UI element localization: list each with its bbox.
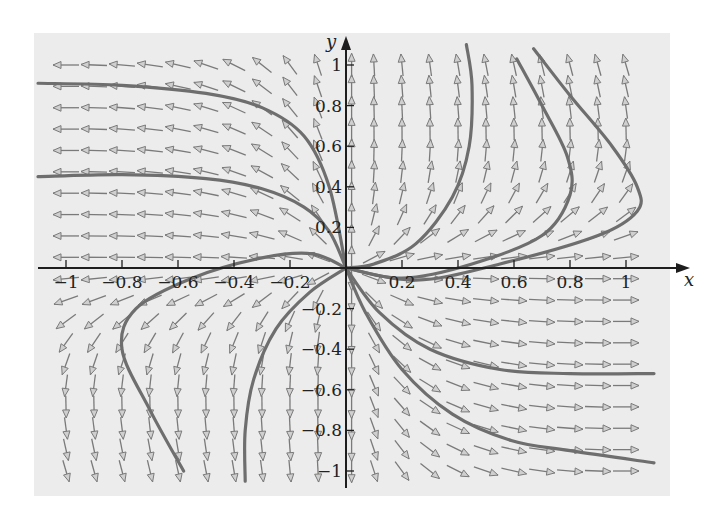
x-tick-label: −0.6 xyxy=(157,272,198,292)
y-tick-label: −1 xyxy=(317,461,342,481)
y-axis-label: y xyxy=(325,31,337,52)
y-tick-label: 0.8 xyxy=(315,96,342,116)
y-tick-label: −0.6 xyxy=(301,380,342,400)
y-tick-label: 1 xyxy=(331,55,342,75)
x-tick-label: −1 xyxy=(53,272,78,292)
x-tick-label: 0.4 xyxy=(444,272,471,292)
x-tick-label: 0.6 xyxy=(500,272,527,292)
x-tick-label: 1 xyxy=(621,272,632,292)
y-tick-label: −0.2 xyxy=(301,299,342,319)
x-axis-label: x xyxy=(684,269,694,290)
y-tick-label: −0.4 xyxy=(301,339,342,359)
x-tick-label: −0.4 xyxy=(213,272,254,292)
x-tick-label: −0.2 xyxy=(269,272,310,292)
y-tick-label: −0.8 xyxy=(301,420,342,440)
y-tick-label: 0.6 xyxy=(315,136,342,156)
y-tick-label: 0.2 xyxy=(315,217,342,237)
x-tick-label: 0.8 xyxy=(556,272,583,292)
x-tick-label: −0.8 xyxy=(101,272,142,292)
direction-field-figure: −1−0.8−0.6−0.4−0.20.20.40.60.81 −1−0.8−0… xyxy=(0,0,706,523)
x-tick-label: 0.2 xyxy=(388,272,415,292)
y-tick-label: 0.4 xyxy=(315,177,342,197)
